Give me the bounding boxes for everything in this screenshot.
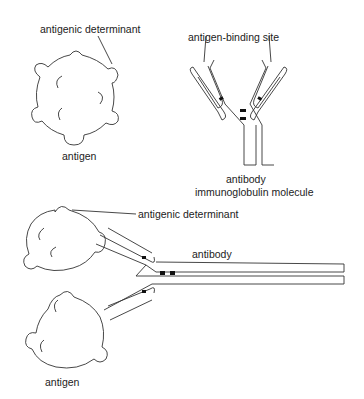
top-antigen-shape bbox=[32, 51, 119, 145]
antibody-label: antibody bbox=[226, 174, 266, 185]
top-determinant-leader bbox=[98, 36, 112, 64]
bottom-antibody-label: antibody bbox=[192, 249, 232, 260]
bottom-antigenic-determinant-label: antigenic determinant bbox=[138, 209, 238, 220]
top-antigenic-determinant-label: antigenic determinant bbox=[40, 24, 140, 35]
bottom-disulfide-bond-2 bbox=[170, 271, 175, 275]
top-disulfide-bond-1 bbox=[240, 109, 246, 112]
right-arm-bond bbox=[257, 96, 262, 101]
top-disulfide-bond-2 bbox=[240, 117, 246, 120]
antigen-binding-site-label: antigen-binding site bbox=[188, 32, 279, 43]
bottom-lower-arm-bond bbox=[142, 290, 146, 293]
top-antigen-label: antigen bbox=[62, 151, 96, 162]
bottom-antibody-shape bbox=[96, 228, 344, 320]
antigen-antibody-diagram bbox=[0, 0, 364, 399]
bottom-lower-antigen-shape bbox=[26, 291, 108, 368]
bottom-upper-arm-bond bbox=[142, 256, 146, 259]
bottom-upper-antigen-shape bbox=[24, 206, 106, 270]
immunoglobulin-molecule-label: immunoglobulin molecule bbox=[195, 187, 313, 198]
bottom-determinant-leader bbox=[72, 210, 136, 214]
bottom-antigen-label: antigen bbox=[45, 377, 79, 388]
bottom-disulfide-bond-1 bbox=[160, 271, 165, 275]
top-antibody-shape bbox=[190, 60, 287, 165]
